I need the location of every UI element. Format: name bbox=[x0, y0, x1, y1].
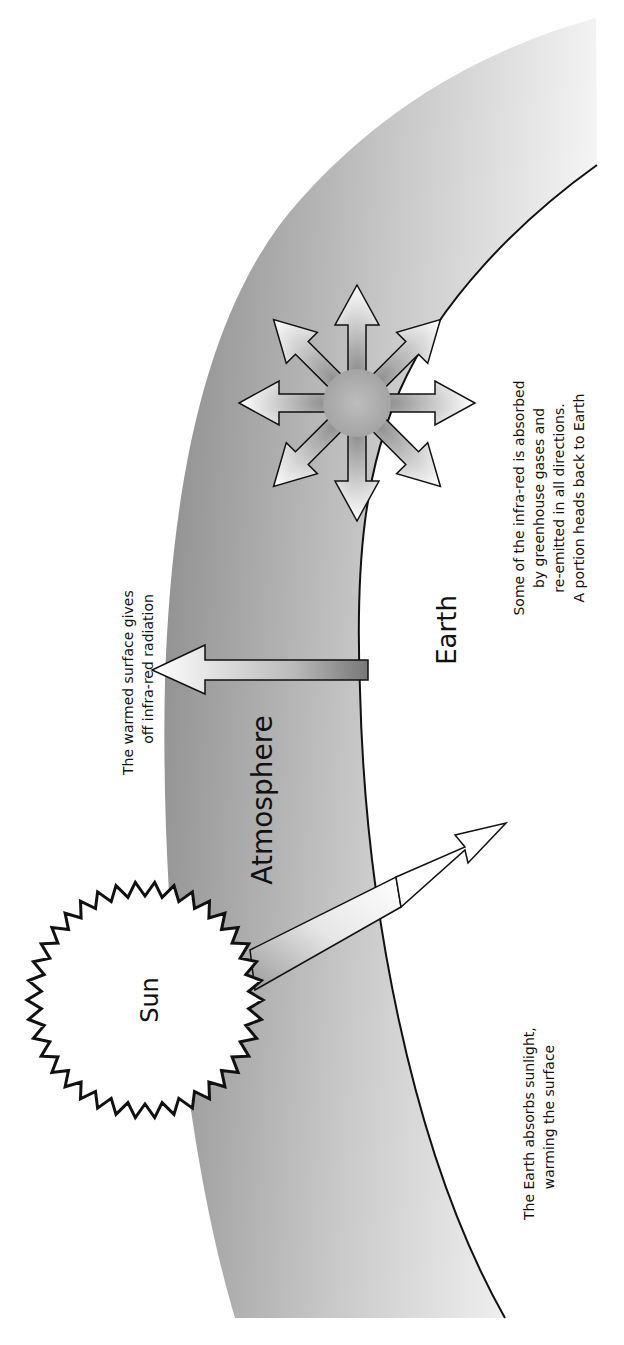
greenhouse-annotation: Some of the infra-red is absorbed by gre… bbox=[511, 380, 587, 615]
annotation-line: A portion heads back to Earth bbox=[571, 394, 587, 603]
sunlight-annotation: The Earth absorbs sunlight, warming the … bbox=[521, 1027, 557, 1221]
earth-label: Earth bbox=[432, 595, 462, 665]
annotation-line: by greenhouse gases and bbox=[531, 408, 547, 588]
annotation-line: re-emitted in all directions. bbox=[551, 403, 567, 592]
infrared-annotation: The warmed surface gives off infra-red r… bbox=[120, 590, 156, 776]
annotation-line: The Earth absorbs sunlight, bbox=[521, 1027, 537, 1221]
annotation-line: warming the surface bbox=[541, 1045, 557, 1189]
greenhouse-diagram: Sun Atmosphere Earth The Earth absorbs s… bbox=[0, 0, 624, 1345]
annotation-line: off infra-red radiation bbox=[140, 594, 156, 744]
annotation-line: The warmed surface gives bbox=[120, 590, 136, 776]
atmosphere-label: Atmosphere bbox=[246, 715, 279, 885]
sun-label: Sun bbox=[136, 977, 164, 1023]
annotation-line: Some of the infra-red is absorbed bbox=[511, 380, 527, 615]
radiating-arrows-icon bbox=[239, 285, 475, 521]
